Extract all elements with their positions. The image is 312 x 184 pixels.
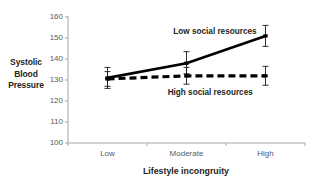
- plot-area: [0, 0, 312, 184]
- data-point-marker: [184, 74, 188, 77]
- chart-container: Systolic Blood Pressure 160 150 140 130 …: [0, 0, 312, 184]
- data-point-marker: [263, 74, 267, 77]
- data-point-marker: [105, 77, 109, 80]
- data-point-marker: [263, 34, 267, 37]
- data-point-marker: [184, 62, 188, 65]
